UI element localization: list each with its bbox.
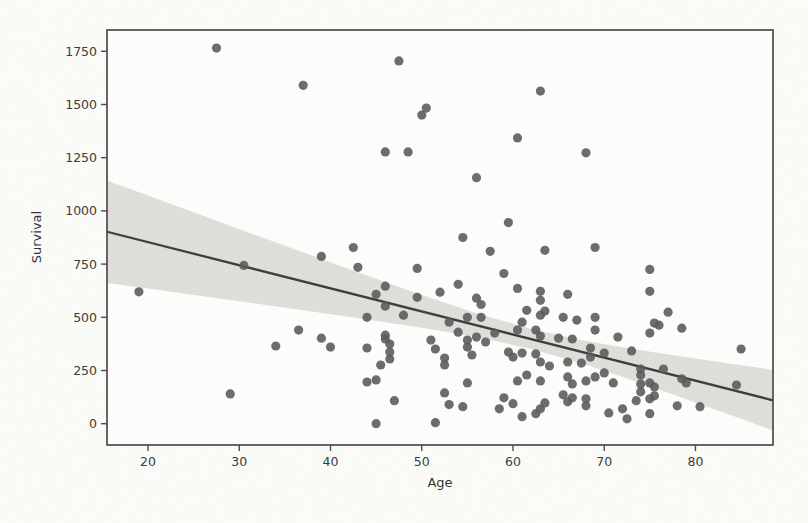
scan-noise-overlay xyxy=(0,0,808,523)
survival-vs-age-scatter-plot: 20304050607080 0250500750100012501500175… xyxy=(0,0,808,523)
scanned-figure-page: 20304050607080 0250500750100012501500175… xyxy=(0,0,808,523)
